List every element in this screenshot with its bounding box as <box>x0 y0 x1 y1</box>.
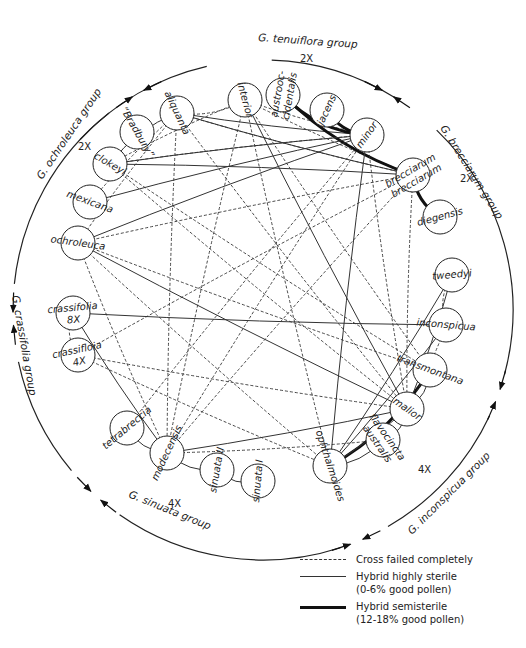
node-crassifolia4x: crassifloia4X <box>51 338 103 372</box>
edge-failed <box>78 355 330 466</box>
node-inconspicua: inconspicua <box>416 308 476 342</box>
edge-failed <box>167 135 367 453</box>
node-bradbury: “Bradbury” <box>119 105 157 160</box>
node-crassifolia8x: crassifolia8X <box>47 296 98 330</box>
node-modecensis: modecensis <box>149 423 184 482</box>
arrow-icon <box>144 82 162 91</box>
node-transmontana: transmontana <box>395 352 465 387</box>
edge-failed <box>78 355 407 409</box>
arrow-icon <box>101 500 116 512</box>
edge-semi <box>283 95 413 175</box>
node-mexicana: mexicana <box>65 185 115 219</box>
node-diegensis: diegensis <box>416 200 465 234</box>
legend-label-line1: Hybrid semisterile <box>356 600 464 613</box>
ploidy-label: 2X <box>78 141 91 152</box>
group-label-tenuiflora: G. tenuiflora group <box>258 31 359 50</box>
arrow-icon <box>488 402 496 420</box>
group-label-inconspicua: G. inconspicua group <box>405 449 492 536</box>
node-tetrabreccia: tetrabreccia <box>100 404 154 451</box>
node-label-line2: 8X <box>67 313 82 325</box>
legend-label-line1: Hybrid highly sterile <box>356 570 457 583</box>
edge-failed <box>167 440 383 453</box>
legend-label-line2: (0-6% good pollen) <box>356 583 457 596</box>
edge-failed <box>110 164 430 370</box>
legend-label: Hybrid highly sterile (0-6% good pollen) <box>356 570 457 596</box>
ploidy-label: 4X <box>168 498 181 509</box>
thin-line-icon <box>300 576 346 577</box>
node-tweedyi: tweedyi <box>432 258 472 292</box>
arrow-icon <box>332 544 351 550</box>
arrow-icon <box>394 97 410 108</box>
node-interior: interior <box>228 81 262 120</box>
edge-sterile <box>73 313 446 325</box>
ploidy-label: 4X <box>418 464 431 475</box>
node-ochroleuca: ochroleuca <box>50 226 106 260</box>
node-malior: malior <box>390 392 424 426</box>
edge-failed <box>245 100 330 466</box>
edge-failed <box>127 135 367 428</box>
legend-item-semi: Hybrid semisterile (12-18% good pollen) <box>300 600 520 626</box>
arrow-icon <box>13 325 15 345</box>
edge-failed <box>167 100 245 453</box>
node-ophthalmoides: ophthalmoides <box>313 429 347 503</box>
node-aliquanta: aliquanta <box>160 89 194 136</box>
legend-label: Hybrid semisterile (12-18% good pollen) <box>356 600 464 626</box>
ploidy-label: 2X <box>300 53 313 64</box>
legend-label-line2: (12-18% good pollen) <box>356 613 464 626</box>
legend-item-failed: Cross failed completely <box>300 553 520 566</box>
arrow-icon <box>365 82 383 91</box>
arrow-icon <box>363 531 381 540</box>
node-brecciarum: brecciarumbrecciarum <box>383 151 444 199</box>
legend-label: Cross failed completely <box>356 553 473 566</box>
legend-item-sterile: Hybrid highly sterile (0-6% good pollen) <box>300 570 520 596</box>
thick-line-icon <box>300 606 346 609</box>
edge-failed <box>167 113 177 453</box>
arrow-icon <box>500 370 505 389</box>
group-label-crassifolia: G. crassifolia group <box>10 294 40 397</box>
arrow-icon <box>77 477 91 491</box>
node-sinuata2: sinuata II <box>200 446 234 493</box>
edge-failed <box>78 243 430 370</box>
node-sinuata1: sinuata I <box>241 459 275 503</box>
legend-label-line1: Cross failed completely <box>356 553 473 566</box>
crossing-diagram: interioraustrooc-cidentalisjacensminorbr… <box>0 0 526 648</box>
edge-sterile <box>110 164 413 175</box>
node-minor: minor <box>350 118 384 152</box>
dashed-line-icon <box>300 559 346 560</box>
edge-failed <box>78 175 413 243</box>
node-austrooccidentalis: austrooc-cidentalis <box>266 70 300 121</box>
legend: Cross failed completely Hybrid highly st… <box>300 553 520 630</box>
group-label-sinuata: G. sinuata group <box>127 488 213 532</box>
node-clokeyi: clokeyi <box>92 147 128 181</box>
ploidy-label: 2X <box>460 173 473 184</box>
